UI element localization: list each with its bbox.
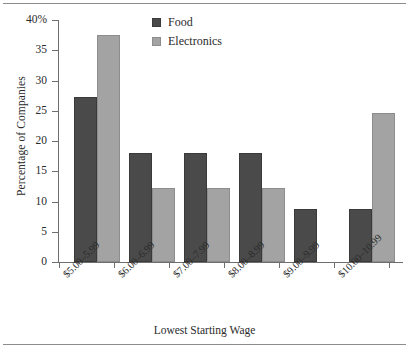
- x-axis-title: Lowest Starting Wage: [0, 324, 409, 336]
- chart-legend: Food Electronics: [152, 13, 222, 51]
- x-tick-mark: [114, 262, 115, 268]
- bar-electronics: [207, 188, 230, 262]
- chart-figure: Percentage of Companies 0510152025303540…: [0, 0, 409, 358]
- legend-label-food: Food: [168, 15, 193, 30]
- y-tick-label: 25: [0, 105, 47, 117]
- y-tick-label: 30: [0, 75, 47, 87]
- plot-area: [58, 20, 400, 262]
- x-tick-mark: [279, 262, 280, 268]
- legend-swatch-electronics-icon: [152, 37, 161, 46]
- bar-electronics: [97, 35, 120, 262]
- bottom-divider-rule: [3, 344, 406, 345]
- x-tick-mark: [389, 262, 390, 268]
- y-tick-label: 10: [0, 196, 47, 208]
- legend-label-electronics: Electronics: [168, 34, 222, 49]
- bar-electronics: [152, 188, 175, 262]
- x-tick-mark: [59, 262, 60, 268]
- y-tick-mark: [52, 262, 59, 263]
- x-tick-mark: [334, 262, 335, 268]
- y-tick-label: 0: [0, 256, 47, 268]
- x-tick-mark: [224, 262, 225, 268]
- y-tick-label: 20: [0, 135, 47, 147]
- y-tick-label: 35: [0, 44, 47, 56]
- y-tick-label: 5: [0, 226, 47, 238]
- top-divider-rule: [3, 3, 406, 4]
- legend-item-electronics: Electronics: [152, 32, 222, 51]
- bar-food: [74, 97, 97, 262]
- bar-electronics: [262, 188, 285, 262]
- legend-item-food: Food: [152, 13, 222, 32]
- y-tick-label: 40%: [0, 14, 47, 26]
- x-tick-mark: [169, 262, 170, 268]
- y-tick-label: 15: [0, 165, 47, 177]
- legend-swatch-food-icon: [152, 18, 161, 27]
